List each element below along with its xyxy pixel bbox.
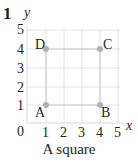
label-b: B [101, 105, 110, 120]
origin-label: 0 [17, 124, 24, 139]
square-shape [46, 49, 100, 105]
y-tick-5: 5 [17, 22, 24, 37]
figure-caption: A square [0, 141, 138, 157]
y-tick-2: 2 [17, 80, 24, 95]
y-axis-label: y [22, 5, 31, 20]
y-tick-4: 4 [17, 42, 24, 57]
x-tick-2: 2 [60, 125, 67, 140]
vertices [43, 46, 103, 108]
x-tick-5: 5 [114, 125, 121, 140]
y-tick-1: 1 [17, 98, 24, 113]
x-tick-4: 4 [96, 125, 103, 140]
label-c: C [103, 37, 112, 52]
y-tick-3: 3 [17, 61, 24, 76]
label-a: A [35, 105, 46, 120]
x-axis-label: x [125, 118, 133, 133]
x-tick-1: 1 [42, 125, 49, 140]
x-tick-3: 3 [78, 125, 85, 140]
label-d: D [35, 37, 45, 52]
